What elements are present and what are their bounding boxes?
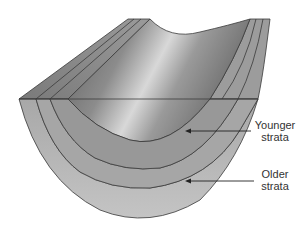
older-strata-label-line1: Older	[255, 168, 295, 180]
younger-strata-label-line2: strata	[251, 131, 299, 143]
older-strata-label-line2: strata	[255, 180, 295, 192]
older-strata-label: Older strata	[255, 168, 295, 192]
younger-strata-label-line1: Younger	[251, 119, 299, 131]
syncline-diagram	[0, 0, 306, 233]
younger-strata-label: Younger strata	[251, 119, 299, 143]
